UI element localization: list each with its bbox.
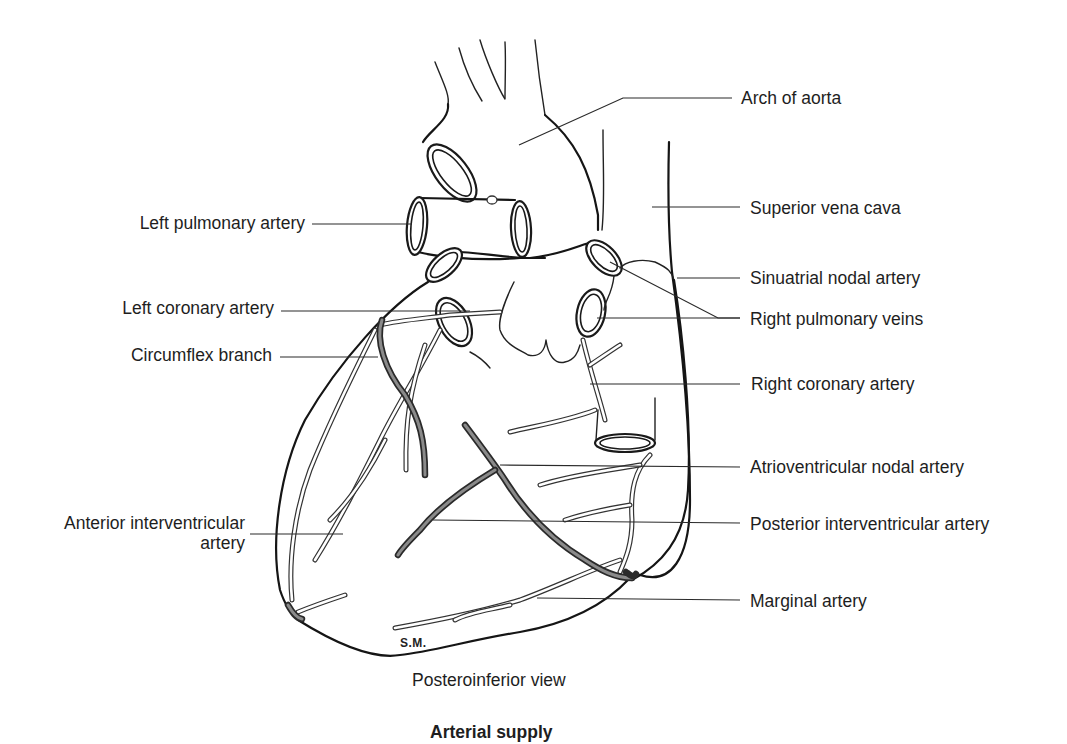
label-anterior-interventricular-line1: Anterior interventricular bbox=[64, 513, 245, 533]
label-arch-of-aorta: Arch of aorta bbox=[741, 88, 841, 108]
coronary-branches bbox=[291, 312, 650, 628]
label-sinuatrial-nodal-artery: Sinuatrial nodal artery bbox=[750, 268, 920, 288]
label-right-coronary-artery: Right coronary artery bbox=[751, 374, 914, 394]
label-atrioventricular-nodal-artery: Atrioventricular nodal artery bbox=[750, 457, 964, 477]
label-circumflex-branch: Circumflex branch bbox=[131, 345, 272, 365]
heart-arterial-supply-diagram: Left pulmonary artery Left coronary arte… bbox=[0, 0, 1067, 744]
aortic-arch-drawing bbox=[423, 40, 604, 230]
label-right-pulmonary-veins: Right pulmonary veins bbox=[750, 309, 923, 329]
label-anterior-interventricular-line2: artery bbox=[64, 533, 245, 553]
left-atrium-drawing bbox=[420, 234, 674, 440]
label-left-coronary-artery: Left coronary artery bbox=[122, 298, 274, 318]
leader-posterior-interventricular-artery bbox=[433, 520, 740, 523]
artist-signature: S.M. bbox=[400, 636, 427, 650]
pulmonary-artery-drawing bbox=[405, 196, 545, 259]
label-posterior-interventricular-artery: Posterior interventricular artery bbox=[750, 514, 989, 534]
view-caption: Posteroinferior view bbox=[412, 670, 566, 691]
label-superior-vena-cava: Superior vena cava bbox=[750, 198, 901, 218]
heart-illustration bbox=[0, 0, 1067, 744]
label-left-pulmonary-artery: Left pulmonary artery bbox=[140, 213, 305, 233]
leader-marginal-artery bbox=[537, 598, 740, 600]
leader-lines bbox=[250, 98, 740, 600]
label-marginal-artery: Marginal artery bbox=[750, 591, 867, 611]
label-anterior-interventricular-artery: Anterior interventricular artery bbox=[64, 513, 245, 553]
figure-title: Arterial supply bbox=[430, 722, 553, 743]
